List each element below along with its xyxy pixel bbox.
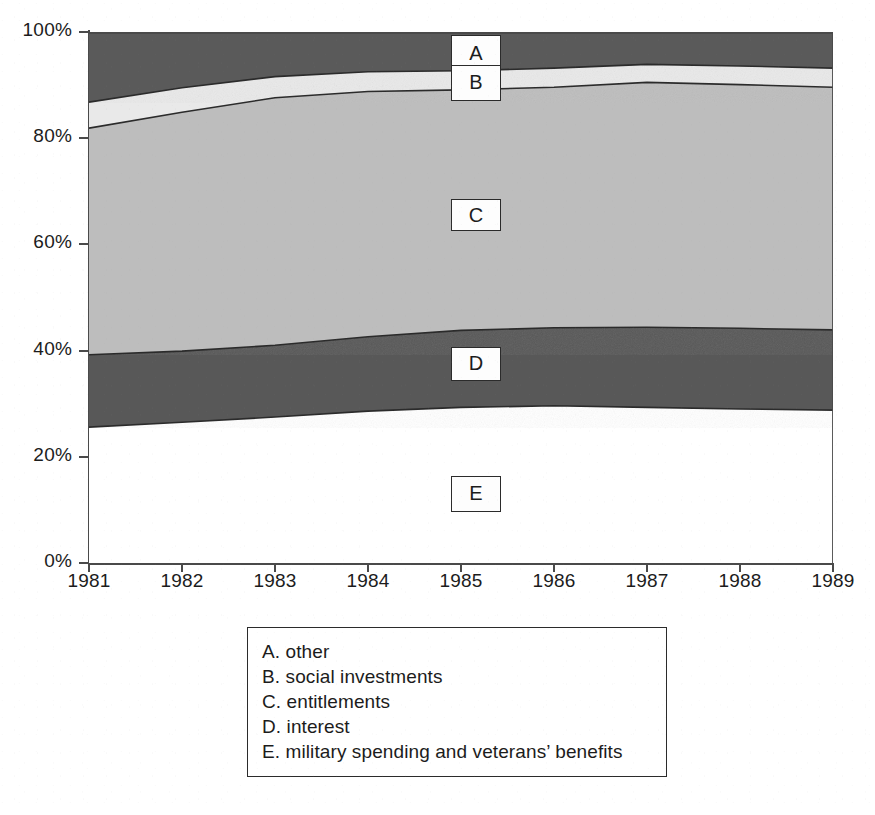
- legend: A. other B. social investments C. entitl…: [247, 627, 667, 777]
- x-tick-label: 1982: [147, 570, 217, 592]
- y-tick-label: 40%: [0, 338, 72, 360]
- y-tick-label: 0%: [0, 550, 72, 572]
- legend-item-c: C. entitlements: [262, 689, 666, 714]
- x-tick-label: 1988: [705, 570, 775, 592]
- legend-item-e: E. military spending and veterans’ benef…: [262, 739, 666, 764]
- y-tick-label: 80%: [0, 125, 72, 147]
- x-tick-label: 1981: [54, 570, 124, 592]
- legend-item-b: B. social investments: [262, 664, 666, 689]
- series-label-d: D: [451, 347, 501, 381]
- x-tick-label: 1984: [333, 570, 403, 592]
- series-label-c: C: [451, 199, 501, 231]
- x-tick-label: 1985: [426, 570, 496, 592]
- x-tick-label: 1989: [798, 570, 868, 592]
- legend-item-a: A. other: [262, 639, 666, 664]
- y-tick-mark: [79, 243, 89, 245]
- y-tick-label: 60%: [0, 231, 72, 253]
- stacked-area-chart: 100%80%60%40%20%0% 198119821983198419851…: [0, 0, 875, 815]
- x-tick-label: 1983: [240, 570, 310, 592]
- series-label-b: B: [451, 65, 501, 101]
- x-tick-label: 1987: [612, 570, 682, 592]
- series-label-e: E: [451, 476, 501, 512]
- y-tick-mark: [79, 137, 89, 139]
- y-tick-mark: [79, 350, 89, 352]
- y-tick-label: 100%: [0, 19, 72, 41]
- y-tick-mark: [79, 456, 89, 458]
- x-tick-label: 1986: [519, 570, 589, 592]
- y-tick-mark: [79, 31, 89, 33]
- legend-item-d: D. interest: [262, 714, 666, 739]
- y-tick-label: 20%: [0, 444, 72, 466]
